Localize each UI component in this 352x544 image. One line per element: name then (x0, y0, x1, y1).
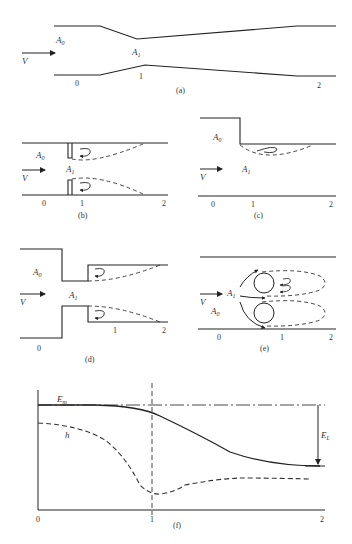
caption-f: (f) (173, 521, 181, 530)
small-eddy-icon (280, 285, 290, 292)
x-tick-1: 1 (150, 515, 154, 524)
velocity-label: V (22, 173, 29, 183)
streamline-bottom (72, 178, 143, 194)
wake-bottom-streamline (262, 301, 325, 326)
el-label: EL (320, 430, 331, 441)
area-a1-label: A1 (65, 164, 75, 175)
velocity-label: V (20, 297, 27, 307)
eddy-bottom-icon (80, 183, 90, 191)
area-a0-label: A0 (212, 132, 222, 143)
station-0: 0 (37, 344, 41, 353)
h-label: h (65, 430, 70, 440)
area-a1-label: A1 (68, 290, 78, 301)
station-2: 2 (329, 333, 333, 342)
velocity-label: V (200, 172, 207, 182)
small-eddy-icon (280, 278, 290, 285)
wake-top-streamline (262, 271, 325, 296)
area-a1-label: A1 (241, 164, 251, 175)
station-0: 0 (75, 79, 79, 88)
nozzle-top-wall (20, 249, 168, 281)
orifice-top-plate (68, 143, 72, 158)
station-2: 2 (162, 199, 166, 208)
station-1: 1 (80, 199, 84, 208)
panel-d: V A0 A1 0 1 2 (d) (20, 249, 168, 364)
panel-f-energy-plot: Em h EL 0 1 2 (f) (36, 383, 331, 530)
station-1: 1 (280, 333, 284, 342)
vortex-top-icon (254, 273, 274, 293)
x-tick-0: 0 (36, 515, 40, 524)
streamline-top (88, 265, 160, 281)
vortex-bottom-icon (254, 303, 274, 323)
station-0: 0 (42, 199, 46, 208)
area-a1-label: A1 (131, 47, 141, 58)
orifice-bottom-plate (68, 180, 72, 195)
panel-a: V A0 A1 0 1 2 (a) (22, 26, 336, 95)
panel-c: V A0 A1 0 1 2 (c) (198, 118, 336, 220)
nozzle-bottom-wall (20, 306, 168, 338)
streamline-top (72, 144, 143, 160)
station-0: 0 (217, 333, 221, 342)
streamline-arrow-mid-icon (240, 296, 265, 298)
station-2: 2 (317, 81, 321, 90)
eddy-icon (257, 147, 277, 152)
area-a0-label: A0 (35, 150, 45, 161)
caption-c: (c) (254, 211, 263, 220)
energy-line-em (38, 405, 320, 466)
velocity-label: V (200, 297, 207, 307)
velocity-label: V (22, 56, 29, 66)
station-1: 1 (139, 72, 143, 81)
flow-diagram: V A0 A1 0 1 2 (a) V A0 A1 0 1 2 (b) V A0… (0, 0, 352, 544)
station-2: 2 (162, 326, 166, 335)
area-a0-label: A0 (210, 306, 220, 317)
pressure-head-h (38, 423, 310, 494)
area-a1-label: A1 (226, 288, 236, 299)
streamline-arrow-down-icon (240, 302, 265, 328)
station-1: 1 (251, 200, 255, 209)
caption-a: (a) (176, 86, 185, 95)
caption-b: (b) (78, 211, 88, 220)
station-2: 2 (329, 200, 333, 209)
station-0: 0 (211, 200, 215, 209)
eddy-top-icon (80, 149, 90, 157)
area-a0-label: A0 (55, 35, 65, 46)
panel-b: V A0 A1 0 1 2 (b) (22, 143, 168, 220)
x-tick-2: 2 (320, 515, 324, 524)
venturi-top-wall (54, 26, 336, 39)
em-label: Em (56, 394, 68, 405)
streamline-bottom (88, 306, 160, 322)
caption-d: (d) (85, 355, 95, 364)
eddy-bottom-icon (95, 311, 104, 319)
venturi-bottom-wall (54, 65, 336, 76)
panel-e: V A1 A0 0 1 2 (e) (198, 257, 336, 353)
caption-e: (e) (260, 344, 269, 353)
eddy-top-icon (95, 269, 104, 277)
area-a0-label: A0 (32, 267, 42, 278)
station-1: 1 (113, 326, 117, 335)
